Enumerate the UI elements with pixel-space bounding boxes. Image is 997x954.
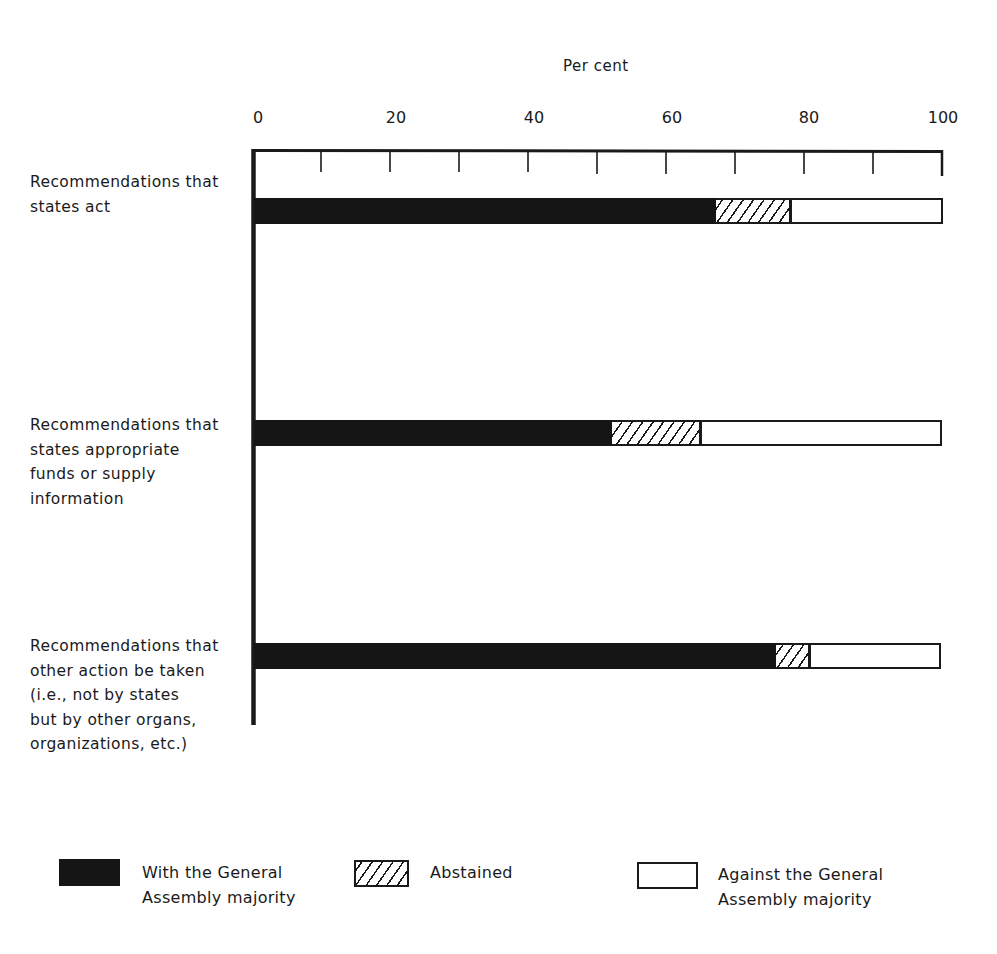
segment-against-majority xyxy=(701,420,942,446)
category-label-1: Recommendations that states act xyxy=(30,170,255,219)
segment-against-majority xyxy=(810,643,941,669)
legend-label-against-majority: Against the General Assembly majority xyxy=(718,862,883,912)
bar-row-1 xyxy=(254,198,943,224)
segment-with-majority xyxy=(254,420,612,446)
legend-swatch-with-majority xyxy=(59,859,120,886)
segment-abstained xyxy=(612,420,701,446)
legend-swatch-abstained xyxy=(354,860,409,887)
category-label-3: Recommendations that other action be tak… xyxy=(30,634,255,757)
segment-abstained xyxy=(776,643,810,669)
segment-abstained xyxy=(716,198,792,224)
bar-row-2 xyxy=(254,420,942,446)
segment-with-majority xyxy=(254,643,776,669)
segment-against-majority xyxy=(791,198,943,224)
segment-with-majority xyxy=(254,198,716,224)
legend-swatch-against-majority xyxy=(637,862,698,889)
legend-label-with-majority: With the General Assembly majority xyxy=(142,860,296,910)
bar-row-3 xyxy=(254,643,941,669)
category-label-2: Recommendations that states appropriate … xyxy=(30,413,255,511)
legend-label-abstained: Abstained xyxy=(430,860,513,885)
